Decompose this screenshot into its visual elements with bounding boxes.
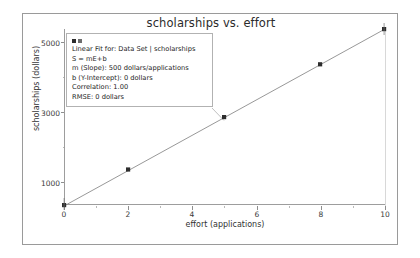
x-tick-mark-minor-5 (224, 206, 225, 208)
y-axis-label: scholarships (dollars) (32, 14, 41, 164)
fit-equation: S = mE+b (72, 55, 208, 65)
linear-fit-info-box[interactable]: Linear Fit for: Data Set | scholarships … (66, 33, 213, 107)
fit-box-marker-row (72, 37, 208, 44)
x-axis-label: effort (applications) (64, 220, 386, 229)
y-tick-label-1000: 1000 (26, 179, 60, 188)
x-tick-mark-minor-7 (289, 206, 290, 208)
x-tick-mark-minor-1 (96, 206, 97, 208)
fit-rmse: RMSE: 0 dollars (72, 93, 208, 103)
x-tick-mark-minor-9 (353, 206, 354, 208)
hollow-square-icon (78, 39, 82, 43)
x-tick-mark-10 (385, 206, 386, 210)
x-tick-label-0: 0 (54, 210, 74, 219)
data-point-marker (126, 167, 130, 171)
data-point-marker (222, 115, 226, 119)
data-point-marker (318, 62, 322, 66)
x-tick-mark-8 (321, 206, 322, 210)
chart-screenshot: scholarships vs. effort scholarships (do… (0, 0, 420, 258)
x-tick-mark-2 (128, 206, 129, 210)
page-title: scholarships vs. effort (23, 16, 399, 30)
x-tick-label-10: 10 (375, 210, 395, 219)
x-tick-mark-minor-3 (160, 206, 161, 208)
filled-square-icon (72, 39, 76, 43)
x-tick-mark-6 (257, 206, 258, 210)
x-tick-label-6: 6 (247, 210, 267, 219)
fit-intercept: b (Y-Intercept): 0 dollars (72, 74, 208, 84)
x-tick-mark-4 (192, 206, 193, 210)
x-tick-label-4: 4 (182, 210, 202, 219)
fit-line-title: Linear Fit for: Data Set | scholarships (72, 45, 208, 55)
y-tick-label-5000: 5000 (26, 39, 60, 48)
fit-slope: m (Slope): 500 dollars/applications (72, 64, 208, 74)
y-tick-label-3000: 3000 (26, 109, 60, 118)
graph-frame: scholarships vs. effort scholarships (do… (22, 13, 398, 245)
x-tick-label-8: 8 (311, 210, 331, 219)
x-tick-label-2: 2 (118, 210, 138, 219)
fit-correlation: Correlation: 1.00 (72, 83, 208, 93)
